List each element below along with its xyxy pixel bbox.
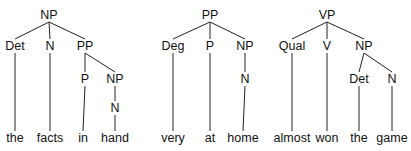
tree-edge bbox=[327, 22, 364, 39]
tree-diagram-svg: NPDetNPPPNPNthefactsinhandPPDegPNPNverya… bbox=[0, 0, 411, 151]
node-label: NP bbox=[355, 39, 372, 53]
leaf-edge bbox=[243, 86, 245, 131]
leaf-word: very bbox=[161, 131, 185, 145]
leaf-word: in bbox=[78, 131, 88, 145]
node-label: N bbox=[110, 101, 119, 115]
node-label: N bbox=[387, 72, 396, 86]
tree-edge bbox=[292, 22, 327, 39]
root-node-label: NP bbox=[40, 8, 57, 22]
node-label: Det bbox=[5, 39, 25, 53]
leaf-word: won bbox=[315, 131, 339, 145]
leaf-word: game bbox=[376, 131, 407, 145]
tree-edge bbox=[364, 53, 392, 72]
tree-edge bbox=[359, 53, 364, 72]
node-label: N bbox=[240, 72, 249, 86]
leaf-edge bbox=[83, 86, 85, 131]
node-label: NP bbox=[236, 39, 253, 53]
node-label: Qual bbox=[279, 39, 305, 53]
leaf-word: hand bbox=[101, 131, 129, 145]
tree-edge bbox=[85, 53, 115, 72]
node-label: P bbox=[206, 39, 214, 53]
node-label: NP bbox=[106, 72, 123, 86]
root-node-label: PP bbox=[202, 8, 219, 22]
leaf-word: almost bbox=[274, 131, 311, 145]
tree-edge bbox=[49, 22, 50, 39]
leaf-word: at bbox=[205, 131, 216, 145]
tree-edge bbox=[173, 22, 210, 39]
node-label: P bbox=[81, 72, 89, 86]
node-label: Det bbox=[349, 72, 369, 86]
node-label: Deg bbox=[162, 39, 185, 53]
syntax-tree-diagram: NPDetNPPPNPNthefactsinhandPPDegPNPNverya… bbox=[0, 0, 411, 151]
node-label: PP bbox=[77, 39, 94, 53]
tree-edge bbox=[15, 22, 49, 39]
leaf-word: the bbox=[6, 131, 23, 145]
root-node-label: VP bbox=[319, 8, 336, 22]
leaf-word: home bbox=[227, 131, 258, 145]
tree-edge bbox=[49, 22, 85, 39]
tree-edge bbox=[210, 22, 245, 39]
leaf-word: the bbox=[350, 131, 367, 145]
leaf-word: facts bbox=[37, 131, 63, 145]
node-label: V bbox=[323, 39, 332, 53]
node-label: N bbox=[45, 39, 54, 53]
